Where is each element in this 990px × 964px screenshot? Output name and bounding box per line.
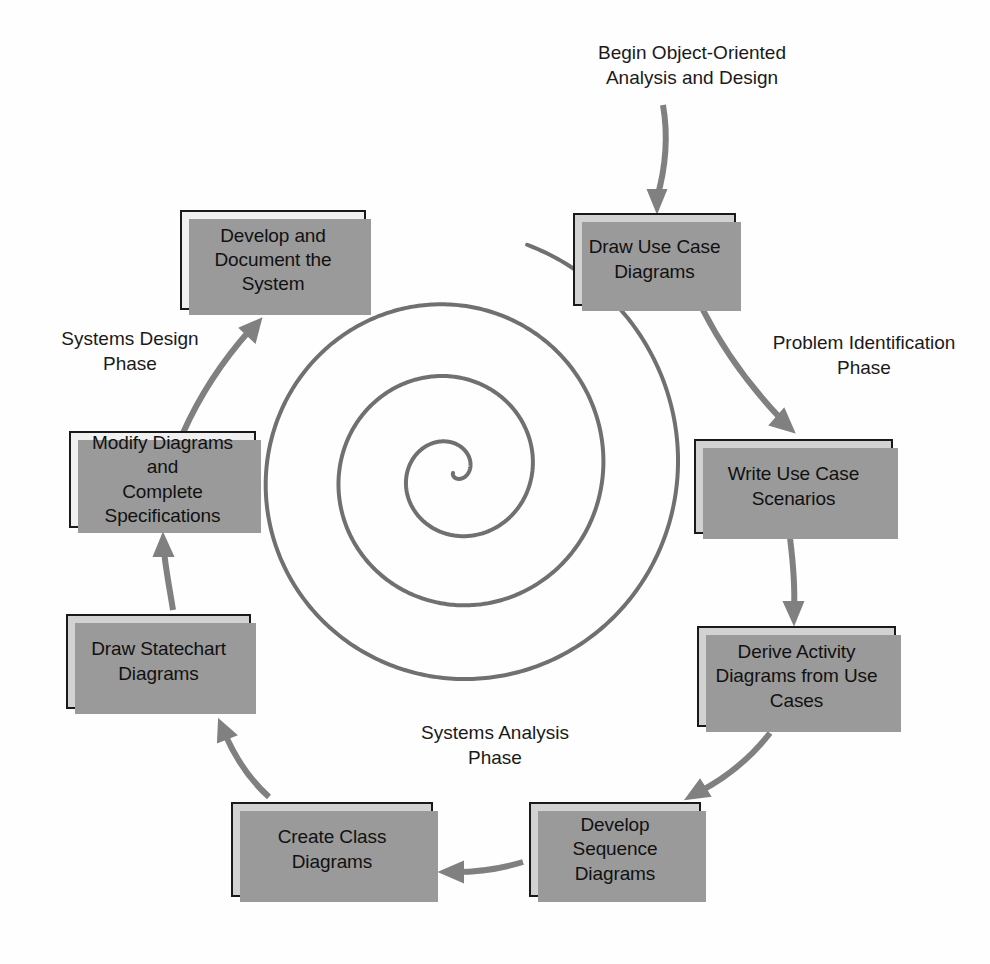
- process-node-develop-sequence-diagrams[interactable]: Develop Sequence Diagrams: [529, 802, 701, 897]
- process-node-label: Develop and Document the System: [208, 224, 337, 297]
- process-node-label: Modify Diagrams and Complete Specificati…: [71, 431, 254, 528]
- process-node-label: Create Class Diagrams: [272, 825, 393, 874]
- diagram-canvas: Draw Use Case DiagramsWrite Use Case Sce…: [0, 0, 990, 964]
- arrow-arrow-begin-to-draw-use-case: [648, 105, 666, 212]
- annotation-systems-analysis-phase: Systems Analysis Phase: [390, 720, 600, 770]
- arrow-shaft: [699, 733, 770, 792]
- process-node-label: Develop Sequence Diagrams: [531, 813, 699, 886]
- arrow-head-icon: [784, 602, 803, 624]
- annotation-begin-label: Begin Object-Oriented Analysis and Desig…: [557, 40, 827, 90]
- arrow-head-icon: [218, 720, 236, 742]
- process-node-write-use-case-scenarios[interactable]: Write Use Case Scenarios: [694, 439, 893, 534]
- arrow-arrow-draw-statechart-to-modify-diagrams: [154, 534, 173, 610]
- annotation-systems-design-phase: Systems Design Phase: [32, 326, 228, 376]
- arrow-arrow-create-class-to-draw-statechart: [218, 720, 269, 797]
- arrow-head-icon: [154, 534, 173, 556]
- arrow-arrow-develop-sequence-to-create-class: [440, 862, 523, 882]
- process-node-draw-use-case-diagrams[interactable]: Draw Use Case Diagrams: [573, 213, 736, 306]
- arrow-arrow-derive-activity-to-develop-sequence: [686, 733, 770, 799]
- arrow-head-icon: [440, 862, 463, 882]
- process-node-derive-activity-diagrams[interactable]: Derive Activity Diagrams from Use Cases: [697, 626, 896, 727]
- process-node-label: Write Use Case Scenarios: [722, 462, 865, 511]
- process-node-label: Draw Statechart Diagrams: [85, 637, 232, 686]
- process-node-develop-and-document-the-system[interactable]: Develop and Document the System: [180, 210, 366, 310]
- process-node-modify-diagrams-complete-specifications[interactable]: Modify Diagrams and Complete Specificati…: [69, 431, 256, 528]
- process-node-create-class-diagrams[interactable]: Create Class Diagrams: [231, 802, 433, 897]
- process-node-label: Draw Use Case Diagrams: [583, 235, 727, 284]
- arrow-shaft: [790, 538, 794, 610]
- arrow-shaft: [455, 862, 523, 872]
- arrow-arrow-write-use-case-to-derive-activity: [784, 538, 803, 624]
- process-node-draw-statechart-diagrams[interactable]: Draw Statechart Diagrams: [66, 614, 251, 709]
- arrow-shaft: [657, 105, 666, 198]
- arrow-shaft: [164, 550, 173, 610]
- arrow-shaft: [225, 734, 269, 797]
- annotation-problem-identification-phase: Problem Identification Phase: [740, 330, 988, 380]
- arrow-head-icon: [648, 190, 666, 212]
- process-node-label: Derive Activity Diagrams from Use Cases: [710, 640, 884, 713]
- arrow-head-icon: [686, 780, 710, 799]
